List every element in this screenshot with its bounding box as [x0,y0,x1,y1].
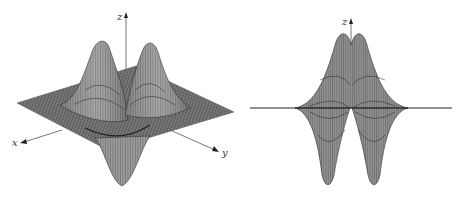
right-surface-svg [242,0,456,200]
z-axis-arrow-icon [349,18,353,24]
y-axis-line [170,130,215,150]
upper-lobes [295,34,408,108]
lower-lobe-left [295,108,350,185]
right-surface-plot: z [242,0,456,200]
left-surface-svg [0,0,242,200]
x-axis-label: x [12,138,18,148]
z-axis-arrow-icon [124,12,128,18]
z-axis-label: z [117,12,122,22]
x-axis-line [24,130,62,142]
y-axis-label: y [222,148,228,158]
lower-lobe-right [352,108,408,185]
y-axis-arrow-icon [212,146,219,152]
trough-front [95,136,150,186]
left-peak-shade [60,41,128,121]
right-peak-shade [125,43,190,118]
z-axis-label: z [342,17,347,27]
left-surface-plot: z x y [0,0,242,200]
x-axis-arrow-icon [20,139,27,144]
